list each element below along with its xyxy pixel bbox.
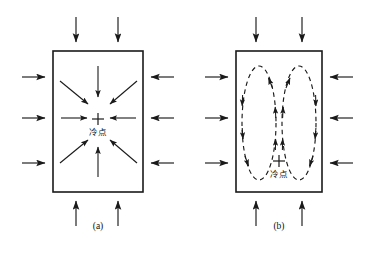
panel-b-external-arrows-left	[205, 77, 228, 163]
panel-a-caption: (a)	[93, 221, 104, 232]
panel-b-external-arrows-top	[256, 17, 302, 42]
figure-root: 冷点 (a)	[0, 0, 366, 253]
inner-arrow-down-left	[110, 81, 137, 104]
cell-right-arrow-down-2	[315, 128, 316, 139]
panel-b-right-cell-direction-arrows	[282, 78, 316, 166]
panel-a-center-label: 冷点	[89, 127, 107, 137]
inner-arrow-up-left	[110, 140, 137, 163]
panel-a-center-marker	[92, 113, 104, 125]
inner-arrow-down-right	[60, 81, 88, 104]
cell-left-arrow-down-2	[242, 128, 243, 139]
panel-b-external-arrows-right	[330, 77, 353, 163]
panel-a-external-arrows-left	[22, 77, 45, 163]
cell-right-arrow-up-2	[283, 107, 284, 118]
panel-b-caption: (b)	[273, 221, 284, 232]
panel-b: 冷点 (b)	[205, 17, 353, 232]
panel-b-center-marker	[273, 155, 285, 167]
panel-a-external-arrows-top	[76, 17, 118, 42]
panel-a-external-arrows-right	[151, 77, 174, 163]
inner-arrow-up-right	[60, 140, 88, 163]
panel-a: 冷点 (a)	[22, 17, 174, 232]
panel-b-left-cell-direction-arrows	[242, 78, 276, 166]
cell-left-arrow-up-2	[275, 107, 276, 118]
panel-b-center-label: 冷点	[270, 169, 288, 179]
thermal-convection-figure: 冷点 (a)	[0, 0, 366, 253]
